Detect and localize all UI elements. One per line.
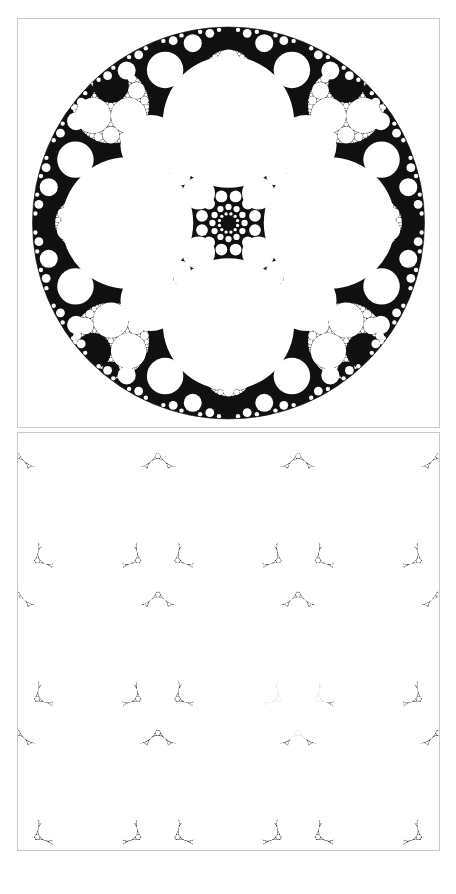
gasket-hole (199, 438, 200, 439)
gasket-hole (230, 87, 231, 88)
gasket-hole (302, 597, 303, 598)
gasket-hole (156, 575, 157, 576)
gasket-hole (235, 543, 236, 544)
gasket-hole (89, 449, 90, 450)
gasket-hole (250, 371, 253, 374)
gasket-hole (413, 534, 414, 535)
gasket-hole (37, 758, 40, 761)
gasket-hole (114, 834, 118, 838)
gasket-hole (21, 597, 22, 598)
gasket-hole (20, 845, 23, 848)
gasket-hole (164, 706, 165, 707)
gasket-hole (402, 682, 403, 683)
gasket-hole (342, 376, 346, 380)
gasket-hole (272, 158, 275, 161)
gasket-hole (393, 561, 403, 571)
gasket-hole (220, 215, 223, 218)
gasket-hole (406, 603, 408, 605)
gasket-hole (363, 317, 380, 334)
gasket-hole (423, 634, 424, 635)
gasket-hole (153, 707, 156, 710)
gasket-hole (301, 152, 303, 154)
gasket-hole (307, 527, 308, 528)
gasket-hole (409, 495, 410, 496)
gasket-hole (107, 551, 110, 554)
gasket-hole (381, 732, 385, 736)
gasket-hole (171, 268, 173, 270)
gasket-hole (273, 151, 274, 152)
gasket-hole (148, 527, 149, 528)
gasket-hole (170, 480, 171, 481)
gasket-hole (409, 502, 413, 506)
gasket-hole (198, 557, 202, 561)
gasket-hole (154, 638, 155, 639)
gasket-hole (203, 707, 204, 708)
gasket-hole (376, 221, 380, 225)
gasket-hole (341, 582, 343, 584)
gasket-hole (114, 721, 116, 723)
gasket-hole (366, 570, 370, 574)
gasket-hole (376, 820, 378, 822)
gasket-hole (82, 130, 83, 131)
gasket-hole (82, 738, 83, 739)
gasket-hole (144, 154, 164, 174)
gasket-hole (396, 693, 398, 695)
gasket-hole (88, 704, 116, 732)
gasket-hole (282, 275, 283, 276)
gasket-hole (215, 826, 216, 827)
gasket-hole (414, 174, 418, 178)
gasket-hole (94, 592, 96, 594)
gasket-hole (55, 222, 56, 223)
gasket-hole (266, 464, 268, 466)
gasket-hole (313, 616, 314, 617)
gasket-hole (242, 565, 243, 566)
gasket-hole (137, 99, 138, 100)
gasket-hole (355, 218, 378, 241)
gasket-hole (329, 564, 330, 565)
gasket-hole (408, 286, 412, 290)
gasket-hole (119, 68, 120, 69)
gasket-hole (79, 731, 81, 733)
gasket-hole (349, 548, 356, 555)
gasket-hole (337, 709, 339, 711)
gasket-hole (225, 846, 227, 848)
gasket-hole (239, 353, 240, 354)
gasket-hole (383, 241, 388, 246)
gasket-hole (40, 533, 42, 535)
gasket-hole (200, 447, 201, 448)
gasket-hole (37, 556, 39, 558)
gasket-hole (40, 671, 42, 673)
gasket-hole (154, 306, 155, 307)
gasket-hole (144, 280, 145, 281)
gasket-hole (154, 571, 155, 572)
gasket-hole (127, 55, 131, 59)
gasket-hole (293, 284, 313, 304)
gasket-hole (255, 34, 273, 52)
gasket-hole (252, 143, 266, 157)
half-plane-panel (17, 432, 440, 851)
gasket-hole (332, 819, 334, 821)
gasket-hole (191, 463, 192, 464)
gasket-hole (72, 565, 73, 566)
gasket-hole (395, 695, 399, 699)
gasket-hole (419, 755, 426, 762)
gasket-hole (221, 51, 222, 52)
gasket-hole (379, 105, 380, 106)
gasket-hole (394, 837, 396, 839)
gasket-hole (169, 494, 172, 497)
gasket-hole (69, 593, 71, 595)
gasket-hole (97, 544, 99, 546)
gasket-hole (366, 726, 367, 727)
gasket-hole (312, 152, 314, 154)
gasket-hole (328, 373, 330, 375)
gasket-hole (395, 557, 399, 561)
gasket-hole (145, 465, 148, 468)
gasket-hole (388, 688, 389, 689)
gasket-hole (147, 52, 183, 88)
gasket-hole (74, 114, 76, 116)
gasket-hole (416, 531, 422, 537)
gasket-hole (125, 841, 126, 842)
gasket-hole (375, 731, 377, 733)
gasket-hole (411, 497, 439, 525)
gasket-hole (179, 145, 180, 146)
